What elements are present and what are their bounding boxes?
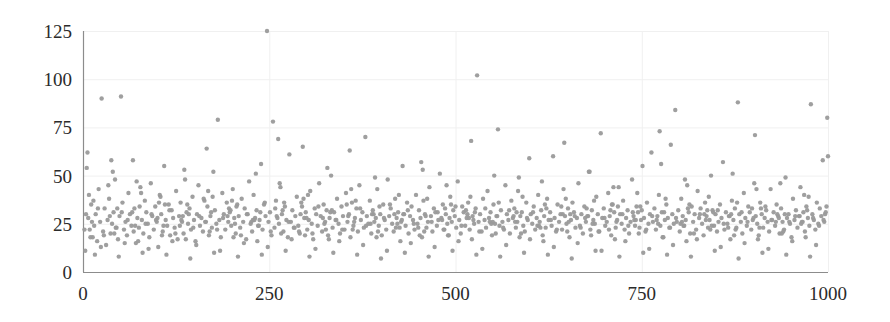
data-point xyxy=(411,218,415,222)
data-point xyxy=(692,231,696,235)
data-point xyxy=(247,179,251,183)
data-point xyxy=(341,214,345,218)
data-point xyxy=(516,189,520,193)
data-point xyxy=(524,200,528,204)
data-point xyxy=(355,252,359,256)
data-point xyxy=(596,229,600,233)
data-point xyxy=(697,216,701,220)
data-point xyxy=(231,187,235,191)
data-point xyxy=(348,235,352,239)
data-point xyxy=(578,225,582,229)
data-point xyxy=(226,220,230,224)
data-point xyxy=(766,247,770,251)
data-point xyxy=(283,249,287,253)
data-point xyxy=(225,214,229,218)
data-point xyxy=(373,175,377,179)
data-point xyxy=(745,220,749,224)
data-point xyxy=(685,183,689,187)
data-point xyxy=(163,202,167,206)
data-point xyxy=(384,227,388,231)
data-point xyxy=(178,224,182,228)
data-point xyxy=(137,225,141,229)
data-point xyxy=(292,225,296,229)
data-point xyxy=(475,73,479,77)
data-point xyxy=(470,237,474,241)
data-point xyxy=(90,220,94,224)
data-point xyxy=(551,154,555,158)
data-point xyxy=(440,218,444,222)
data-point xyxy=(320,229,324,233)
data-point xyxy=(85,150,89,154)
data-point xyxy=(187,206,191,210)
data-point xyxy=(633,224,637,228)
data-point xyxy=(418,216,422,220)
data-point xyxy=(266,220,270,224)
data-point xyxy=(340,227,344,231)
data-point xyxy=(98,220,102,224)
data-point xyxy=(775,212,779,216)
data-point xyxy=(179,218,183,222)
data-point xyxy=(730,198,734,202)
data-point xyxy=(567,235,571,239)
data-point xyxy=(329,173,333,177)
data-point xyxy=(500,220,504,224)
data-point xyxy=(698,212,702,216)
data-point xyxy=(663,197,667,201)
data-point xyxy=(432,245,436,249)
data-point xyxy=(570,200,574,204)
data-point xyxy=(736,256,740,260)
data-point xyxy=(346,214,350,218)
data-point xyxy=(465,212,469,216)
data-point xyxy=(141,231,145,235)
data-point xyxy=(480,247,484,251)
data-point xyxy=(691,220,695,224)
data-point xyxy=(687,202,691,206)
data-point xyxy=(622,227,626,231)
data-point xyxy=(649,150,653,154)
data-point xyxy=(251,193,255,197)
data-point xyxy=(144,210,148,214)
data-point xyxy=(589,233,593,237)
data-point xyxy=(126,191,130,195)
data-point xyxy=(82,227,86,231)
data-point xyxy=(258,210,262,214)
data-point xyxy=(190,195,194,199)
data-point xyxy=(743,216,747,220)
data-point xyxy=(401,212,405,216)
data-point xyxy=(456,179,460,183)
data-point xyxy=(541,239,545,243)
data-point xyxy=(338,231,342,235)
data-point xyxy=(107,197,111,201)
data-point xyxy=(517,175,521,179)
data-point xyxy=(797,214,801,218)
data-point xyxy=(379,256,383,260)
data-point xyxy=(446,233,450,237)
data-point xyxy=(676,208,680,212)
data-point xyxy=(93,212,97,216)
data-point xyxy=(581,231,585,235)
data-point xyxy=(708,227,712,231)
data-point xyxy=(492,173,496,177)
data-point xyxy=(573,225,577,229)
data-point xyxy=(616,204,620,208)
data-point xyxy=(809,102,813,106)
data-point xyxy=(391,229,395,233)
x-axis-tick-label: 750 xyxy=(628,284,657,303)
data-point xyxy=(95,239,99,243)
data-point xyxy=(162,164,166,168)
data-point xyxy=(233,222,237,226)
data-point xyxy=(108,214,112,218)
data-point xyxy=(184,237,188,241)
data-point xyxy=(204,146,208,150)
data-point xyxy=(573,214,577,218)
data-point xyxy=(654,227,658,231)
data-point xyxy=(758,200,762,204)
data-point xyxy=(102,233,106,237)
data-point xyxy=(559,204,563,208)
plot-canvas xyxy=(0,0,890,322)
data-point xyxy=(752,181,756,185)
data-point xyxy=(823,212,827,216)
data-point xyxy=(576,181,580,185)
data-point xyxy=(164,252,168,256)
data-point xyxy=(575,241,579,245)
